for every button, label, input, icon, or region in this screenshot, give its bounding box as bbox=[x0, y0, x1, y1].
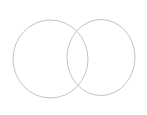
venn-canvas bbox=[0, 0, 147, 115]
venn-diagram bbox=[0, 0, 147, 115]
right-circle-outline bbox=[67, 20, 135, 96]
left-circle-outline bbox=[13, 20, 88, 98]
